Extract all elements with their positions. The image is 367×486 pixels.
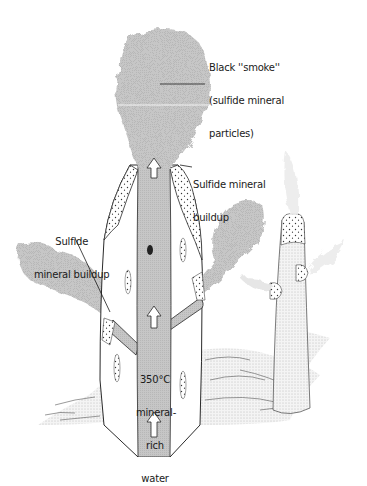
label-line: Sulfide mineral bbox=[193, 179, 265, 190]
label-sulfide-buildup-right: Sulfide mineral buildup bbox=[193, 157, 265, 234]
conduit-hole bbox=[147, 245, 153, 255]
label-black-smoke: Black ''smoke'' (sulfide mineral particl… bbox=[209, 40, 284, 150]
label-line: mineral buildup bbox=[34, 269, 109, 280]
label-line: mineral- bbox=[136, 407, 174, 418]
label-line: 350°C bbox=[136, 374, 174, 385]
label-line: water bbox=[136, 473, 174, 484]
label-line: Black ''smoke'' bbox=[209, 62, 284, 73]
label-line: Sulfide bbox=[34, 236, 109, 247]
label-line: rich bbox=[136, 440, 174, 451]
top-plume bbox=[116, 28, 210, 168]
label-line: (sulfide mineral bbox=[209, 95, 284, 106]
label-mineral-rich-water: 350°C mineral- rich water bbox=[136, 352, 174, 486]
label-line: particles) bbox=[209, 128, 284, 139]
label-sulfide-buildup-left: Sulfide mineral buildup bbox=[34, 214, 109, 291]
label-line: buildup bbox=[193, 212, 265, 223]
